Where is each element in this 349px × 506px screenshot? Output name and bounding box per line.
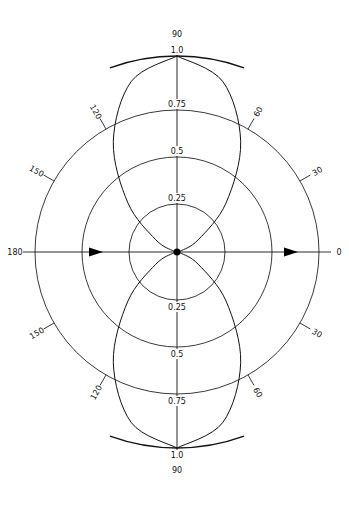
tick--30 — [300, 323, 310, 329]
angle-label-90: 90 — [172, 466, 182, 475]
tick-150 — [44, 175, 54, 181]
angle-label-180: 180 — [7, 248, 22, 257]
angle-label-30: 30 — [311, 165, 324, 178]
tick-60 — [248, 119, 254, 129]
origin-dot-icon — [174, 249, 181, 256]
ring-label-0.25-bottom: 0.25 — [168, 303, 186, 312]
angle-label-60: 60 — [251, 386, 264, 399]
angle-label-150: 150 — [28, 164, 46, 179]
ring-label-0.75-top: 0.75 — [168, 100, 186, 109]
tick--60 — [248, 375, 254, 385]
angle-label-0: 0 — [336, 248, 341, 257]
angle-label-120: 120 — [88, 103, 103, 121]
polar-diagram: 9060300306090120150180150120 0.250.250.5… — [0, 0, 349, 506]
origin-dot — [174, 249, 181, 256]
tick-240 — [100, 375, 106, 385]
angle-label-150: 150 — [28, 326, 46, 341]
ring-label-0.5-bottom: 0.5 — [171, 350, 184, 359]
tick-210 — [44, 323, 54, 329]
ring-label-1.0-bottom: 1.0 — [171, 451, 184, 460]
angle-label-30: 30 — [310, 327, 323, 340]
angle-label-90: 90 — [172, 30, 182, 39]
tick-120 — [100, 119, 106, 129]
ring-label-0.75-bottom: 0.75 — [168, 397, 186, 406]
angle-label-120: 120 — [89, 384, 104, 402]
arrow-right-icon — [89, 248, 103, 257]
arrow-right-icon — [284, 248, 298, 257]
ring-label-0.25-top: 0.25 — [168, 194, 186, 203]
ring-label-0.5-top: 0.5 — [171, 147, 184, 156]
angle-label-60: 60 — [252, 105, 265, 118]
ring-label-1.0-top: 1.0 — [171, 46, 184, 55]
tick-30 — [300, 175, 310, 181]
